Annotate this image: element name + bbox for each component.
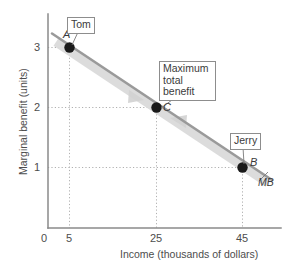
marginal-benefit-chart: 3 2 1 0 5 25 45 Marginal benefit (units)… <box>0 0 293 267</box>
y-axis-title: Marginal benefit (units) <box>18 68 29 175</box>
point-a-dot <box>64 42 74 52</box>
point-c-dot <box>151 102 161 112</box>
x-tick-45: 45 <box>236 233 248 244</box>
point-c-label: C <box>163 102 171 113</box>
mb-curve-label: MB <box>258 177 274 188</box>
y-tick-1: 1 <box>34 162 40 173</box>
jerry-callout: Jerry <box>230 133 261 150</box>
x-tick-0: 0 <box>41 233 47 244</box>
axes <box>48 14 281 228</box>
point-b-label: B <box>250 157 257 168</box>
point-b-dot <box>237 162 247 172</box>
y-tick-3: 3 <box>34 42 40 53</box>
x-tick-5: 5 <box>66 233 72 244</box>
tom-callout: Tom <box>67 17 95 34</box>
y-tick-2: 2 <box>34 102 40 113</box>
maximum-total-benefit-callout: Maximum total benefit <box>159 61 216 101</box>
x-tick-25: 25 <box>150 233 162 244</box>
x-axis-title: Income (thousands of dollars) <box>120 249 258 260</box>
